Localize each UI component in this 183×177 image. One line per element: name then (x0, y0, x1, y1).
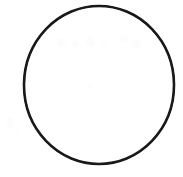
circle-figure (0, 0, 183, 177)
image-canvas (0, 0, 183, 177)
